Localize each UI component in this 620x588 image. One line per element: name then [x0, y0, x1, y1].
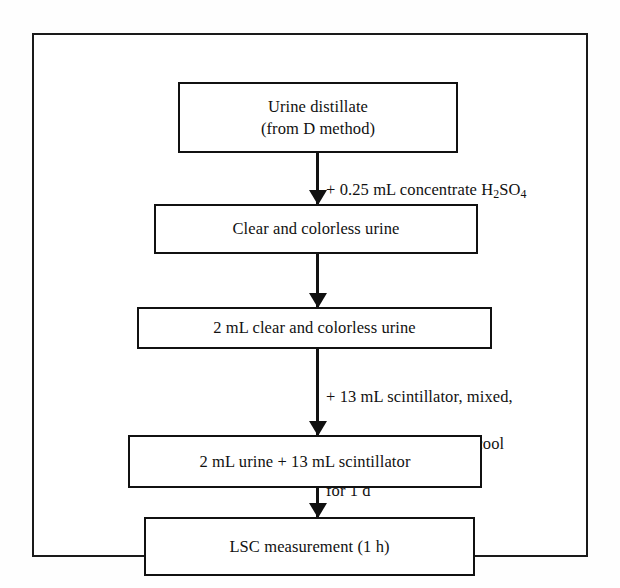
flowchart-node-urine-plus-scintillator: 2 mL urine + 13 mL scintillator — [128, 435, 482, 488]
annotation-line-1-mid: SO — [499, 180, 520, 199]
flowchart-node-lsc-measurement: LSC measurement (1 h) — [144, 517, 475, 576]
flowchart-node-clear-colorless-urine: Clear and colorless urine — [154, 204, 478, 254]
flowchart-node-urine-distillate: Urine distillate (from D method) — [178, 82, 458, 153]
arrow-down-icon — [309, 190, 327, 205]
diagram-canvas: Urine distillate (from D method) + 0.25 … — [0, 0, 620, 588]
arrow-down-icon — [309, 503, 327, 518]
flowchart-node-urine-plus-scintillator-label: 2 mL urine + 13 mL scintillator — [194, 451, 417, 472]
annotation-2-line-1: + 13 mL scintillator, mixed, — [326, 385, 513, 408]
arrow-down-icon — [309, 293, 327, 308]
flowchart-connector-4 — [316, 488, 319, 517]
flowchart-node-clear-colorless-urine-label: Clear and colorless urine — [227, 218, 406, 239]
flowchart-node-urine-distillate-label: Urine distillate (from D method) — [255, 96, 381, 138]
flowchart-connector-1 — [316, 153, 319, 204]
flowchart-node-2ml-clear-colorless-urine: 2 mL clear and colorless urine — [137, 307, 492, 349]
diagram-outer-frame: Urine distillate (from D method) + 0.25 … — [32, 33, 588, 557]
flowchart-node-lsc-measurement-label: LSC measurement (1 h) — [223, 536, 395, 557]
flowchart-connector-3 — [316, 349, 319, 435]
annotation-line-1-prefix: + 0.25 mL concentrate H — [326, 180, 493, 199]
flowchart-node-2ml-clear-colorless-urine-label: 2 mL clear and colorless urine — [207, 317, 422, 338]
annotation-line-1-sub2: 4 — [521, 187, 527, 201]
arrow-down-icon — [309, 421, 327, 436]
annotation-line-1: + 0.25 mL concentrate H2SO4 — [326, 178, 527, 201]
flowchart-connector-2 — [316, 254, 319, 307]
